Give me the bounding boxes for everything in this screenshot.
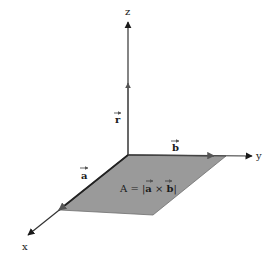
r-vector-label: r [114,113,121,125]
y-axis-label: y [255,150,262,161]
z-axis-label: z [125,6,130,17]
svg-text:b: b [172,142,179,153]
x-axis-label: x [22,241,28,252]
b-vector [128,155,214,156]
svg-text:a: a [81,170,88,181]
diagram-canvas: z y x r a b A = |a × b| [0,0,275,257]
area-formula-label: A = |a × b| [119,181,177,195]
b-vector-label: b [171,141,179,153]
svg-text:A = |a × b|: A = |a × b| [119,183,177,195]
svg-text:r: r [115,114,121,125]
a-vector-label: a [80,168,88,181]
